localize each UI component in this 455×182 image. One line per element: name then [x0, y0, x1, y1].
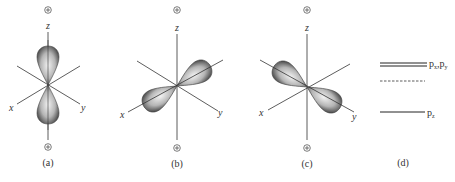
- z-axis-label: z: [174, 22, 179, 33]
- panel-caption: (c): [301, 158, 312, 170]
- x-axis-label: x: [8, 102, 14, 113]
- panel-caption: (a): [42, 157, 53, 169]
- panel-caption: (b): [171, 158, 183, 170]
- plus-sign-icon: [304, 7, 311, 14]
- orbital-figure: z x y (a) z x y: [0, 0, 455, 182]
- plus-sign-icon: [304, 145, 311, 152]
- plus-sign-icon: [174, 145, 181, 152]
- x-axis-label: x: [119, 109, 125, 120]
- energy-level-label-pz: pz: [427, 107, 435, 119]
- panel-a: z x y (a): [8, 7, 86, 169]
- y-axis-label: y: [80, 102, 86, 113]
- z-axis-label: z: [45, 20, 50, 31]
- panel-caption: (d): [397, 157, 409, 169]
- orbital-lobe-lower-right: [301, 78, 346, 117]
- x-axis: [128, 60, 223, 112]
- orbital-lobe-lower-left: [138, 77, 183, 116]
- plus-sign-icon: [174, 7, 181, 14]
- panel-c: z x y (c): [258, 7, 357, 170]
- panel-b: z x y (b): [119, 7, 223, 170]
- orbital-lobe-upper-right: [171, 56, 216, 95]
- y-axis-label: y: [351, 111, 357, 122]
- y-axis-label: y: [217, 107, 223, 118]
- energy-level-label-px-py: px,py: [429, 58, 448, 70]
- plus-sign-icon: [45, 7, 52, 14]
- plus-sign-icon: [45, 144, 52, 151]
- panel-d: px,py pz (d): [380, 58, 448, 169]
- x-axis-label: x: [258, 107, 264, 118]
- z-axis-label: z: [304, 22, 309, 33]
